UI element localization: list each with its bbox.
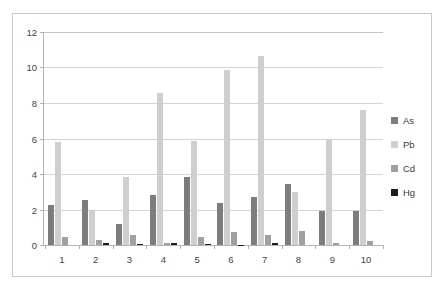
legend-item-pb[interactable]: Pb: [391, 132, 433, 156]
chart-legend: AsPbCdHg: [391, 108, 433, 204]
legend-label: Cd: [403, 163, 415, 174]
bar-hg[interactable]: [171, 243, 177, 245]
bar-group: 9: [315, 32, 349, 245]
bar-as[interactable]: [150, 195, 156, 245]
y-axis-tick-label: 0: [32, 240, 37, 251]
y-axis-tick-label: 4: [32, 168, 37, 179]
bar-pb[interactable]: [258, 56, 264, 245]
bar-pb[interactable]: [55, 142, 61, 245]
legend-item-cd[interactable]: Cd: [391, 156, 433, 180]
bar-groups: 12345678910: [45, 32, 383, 245]
bar-hg[interactable]: [272, 243, 278, 245]
x-axis-tick-label: 1: [45, 254, 79, 265]
bar-group: 3: [113, 32, 147, 245]
bar-cd[interactable]: [333, 243, 339, 245]
bar-as[interactable]: [353, 211, 359, 245]
plot-wrapper: 024681012 12345678910 AsPbCdHg: [13, 14, 431, 276]
bar-group: 5: [180, 32, 214, 245]
bar-group: 8: [282, 32, 316, 245]
bar-cd[interactable]: [96, 240, 102, 245]
x-axis-tick-mark: [180, 245, 181, 249]
x-axis-tick-mark: [113, 245, 114, 249]
x-axis-tick-mark: [315, 245, 316, 249]
legend-label: As: [403, 115, 414, 126]
bar-group: 7: [248, 32, 282, 245]
x-axis-tick-mark: [146, 245, 147, 249]
y-axis-tick-mark: [40, 245, 44, 246]
x-axis-tick-label: 5: [180, 254, 214, 265]
bar-hg[interactable]: [103, 243, 109, 245]
y-axis-tick-mark: [40, 103, 44, 104]
x-axis-tick-label: 10: [349, 254, 383, 265]
x-axis-tick-mark: [282, 245, 283, 249]
legend-label: Pb: [403, 139, 415, 150]
x-axis-tick-mark: [79, 245, 80, 249]
legend-swatch-icon: [391, 141, 398, 148]
x-axis-tick-label: 4: [146, 254, 180, 265]
bar-cd[interactable]: [130, 235, 136, 245]
y-axis-tick-mark: [40, 67, 44, 68]
bar-cd[interactable]: [265, 235, 271, 245]
x-axis-tick-label: 2: [79, 254, 113, 265]
bar-cd[interactable]: [164, 243, 170, 245]
x-axis-tick-label: 3: [113, 254, 147, 265]
bar-as[interactable]: [319, 211, 325, 245]
x-axis-tick-label: 7: [248, 254, 282, 265]
x-axis-tick-mark: [45, 245, 46, 249]
bar-pb[interactable]: [89, 210, 95, 245]
bar-group: 1: [45, 32, 79, 245]
bar-group: 2: [79, 32, 113, 245]
x-axis-tick-mark: [248, 245, 249, 249]
y-axis-tick-label: 6: [32, 133, 37, 144]
legend-item-hg[interactable]: Hg: [391, 180, 433, 204]
bar-as[interactable]: [48, 205, 54, 245]
legend-item-as[interactable]: As: [391, 108, 433, 132]
legend-swatch-icon: [391, 165, 398, 172]
bar-pb[interactable]: [157, 93, 163, 245]
x-axis-tick-label: 9: [315, 254, 349, 265]
y-axis-tick-label: 8: [32, 97, 37, 108]
bar-as[interactable]: [251, 197, 257, 245]
legend-label: Hg: [403, 187, 415, 198]
chart-frame: 024681012 12345678910 AsPbCdHg: [12, 13, 432, 277]
legend-swatch-icon: [391, 189, 398, 196]
bar-hg[interactable]: [205, 244, 211, 245]
y-axis-tick-mark: [40, 32, 44, 33]
bar-cd[interactable]: [299, 231, 305, 245]
bar-pb[interactable]: [326, 140, 332, 245]
bar-as[interactable]: [285, 184, 291, 245]
bar-group: 10: [349, 32, 383, 245]
bar-pb[interactable]: [123, 177, 129, 245]
plot-area: 024681012 12345678910: [43, 32, 383, 246]
bar-group: 4: [146, 32, 180, 245]
y-axis-tick-mark: [40, 210, 44, 211]
bar-pb[interactable]: [292, 192, 298, 245]
bar-pb[interactable]: [191, 141, 197, 245]
bar-as[interactable]: [217, 203, 223, 245]
x-axis-tick-mark: [214, 245, 215, 249]
y-axis-tick-label: 2: [32, 204, 37, 215]
bar-as[interactable]: [184, 177, 190, 245]
bar-cd[interactable]: [367, 241, 373, 245]
bar-pb[interactable]: [360, 110, 366, 245]
y-axis-tick-mark: [40, 139, 44, 140]
x-axis-tick-mark: [383, 245, 384, 249]
bar-cd[interactable]: [62, 237, 68, 245]
x-axis-tick-mark: [349, 245, 350, 249]
bar-pb[interactable]: [224, 70, 230, 245]
x-axis-tick-label: 8: [282, 254, 316, 265]
y-axis-tick-label: 12: [26, 27, 37, 38]
bar-cd[interactable]: [231, 232, 237, 245]
bar-group: 6: [214, 32, 248, 245]
y-axis-tick-label: 10: [26, 62, 37, 73]
bar-as[interactable]: [82, 200, 88, 245]
x-axis-tick-label: 6: [214, 254, 248, 265]
bar-cd[interactable]: [198, 237, 204, 245]
bar-hg[interactable]: [137, 244, 143, 245]
bar-as[interactable]: [116, 224, 122, 245]
y-axis-tick-mark: [40, 174, 44, 175]
legend-swatch-icon: [391, 117, 398, 124]
